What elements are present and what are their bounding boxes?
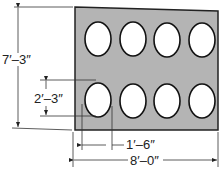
hole [85, 22, 111, 56]
plate-drawing: 7′–3″ 2′–3″ 1′–6″ 8′–0″ [0, 0, 224, 175]
hole-height-dimension-label: 2′–3″ [34, 91, 63, 106]
hole [120, 84, 146, 118]
hole [120, 22, 146, 56]
hole [189, 23, 215, 57]
hole [85, 83, 111, 117]
hole [189, 84, 215, 118]
hole [154, 23, 180, 57]
height-dimension-label: 7′–3″ [2, 52, 31, 67]
width-dimension-label: 8′–0″ [130, 153, 159, 168]
drawing-canvas: 7′–3″ 2′–3″ 1′–6″ 8′–0″ [0, 0, 224, 175]
hole-width-dimension-label: 1′–6″ [126, 137, 155, 152]
hole [154, 84, 180, 118]
